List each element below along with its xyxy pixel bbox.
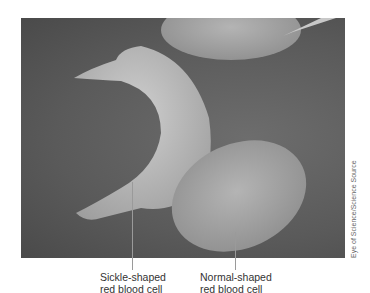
sickle-leader-line (132, 182, 133, 270)
normal-cell-label: Normal-shaped red blood cell (200, 271, 272, 293)
sickle-label-line1: Sickle-shaped (100, 271, 166, 283)
micrograph-image (21, 18, 345, 258)
sickle-label-line2: red blood cell (100, 283, 166, 293)
top-cell (161, 18, 301, 60)
normal-leader-line (235, 232, 236, 270)
cells-illustration (21, 18, 345, 258)
sickle-cell-label: Sickle-shaped red blood cell (100, 271, 166, 293)
normal-label-line1: Normal-shaped (200, 271, 272, 283)
photo-credit: Eye of Science/Science Source (350, 160, 357, 258)
normal-label-line2: red blood cell (200, 283, 272, 293)
